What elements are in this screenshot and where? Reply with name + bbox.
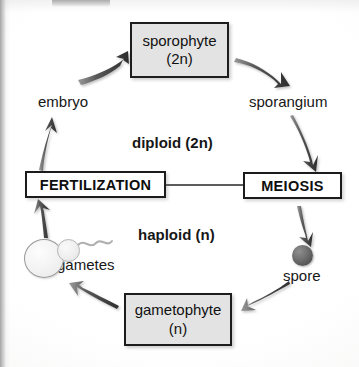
arrow-fertilization-to-embryo	[39, 117, 57, 171]
fertilization-label: FERTILIZATION	[40, 177, 152, 193]
arrow-gametes-to-fertilization	[34, 199, 50, 238]
sporophyte-label-line1: sporophyte	[142, 32, 216, 50]
label-haploid: haploid (n)	[138, 226, 215, 243]
label-spore: spore	[283, 267, 321, 284]
sperm-tail-icon	[78, 241, 112, 245]
label-embryo: embryo	[38, 93, 88, 110]
arrow-embryo-to-sporophyte	[78, 51, 129, 85]
arrow-sporangium-to-meiosis	[290, 115, 318, 172]
process-box-fertilization[interactable]: FERTILIZATION	[25, 171, 166, 198]
sporophyte-label-line2: (2n)	[166, 50, 193, 68]
gametophyte-label-line2: (n)	[169, 320, 187, 338]
arrow-meiosis-to-spore	[297, 206, 313, 247]
arrow-gametophyte-to-gametes	[69, 281, 119, 309]
alternation-of-generations-diagram: sporophyte (2n) gametophyte (n) FERTILIZ…	[0, 0, 359, 367]
stage-box-sporophyte[interactable]: sporophyte (2n)	[130, 22, 229, 78]
meiosis-label: MEIOSIS	[261, 178, 324, 194]
label-diploid: diploid (2n)	[132, 134, 213, 151]
label-sporangium: sporangium	[249, 93, 327, 110]
arrow-sporophyte-to-sporangium	[234, 58, 290, 88]
spore-cell-icon	[292, 245, 313, 266]
gametophyte-label-line1: gametophyte	[135, 301, 222, 319]
process-box-meiosis[interactable]: MEIOSIS	[243, 172, 342, 199]
stage-box-gametophyte[interactable]: gametophyte (n)	[124, 293, 232, 346]
sperm-cell-icon	[57, 239, 80, 262]
arrow-spore-to-gametophyte	[241, 281, 290, 311]
